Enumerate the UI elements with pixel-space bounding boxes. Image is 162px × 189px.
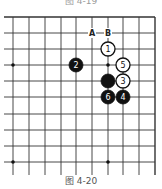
point-label-a: A [89,29,96,38]
stone-number: 6 [105,93,110,102]
star-point [11,160,15,164]
go-board-diagram: AB125364 [0,0,162,189]
stone-number: 5 [120,61,125,70]
star-point [106,63,110,67]
stone-number: 2 [73,61,78,70]
stone-number: 1 [105,45,110,54]
figure-caption: 图 4-20 [0,174,162,187]
stone-number: 3 [120,77,125,86]
point-label-b: B [105,29,111,38]
star-point [106,160,110,164]
black-stone [101,74,115,88]
star-point [11,63,15,67]
stone-number: 4 [120,93,125,102]
